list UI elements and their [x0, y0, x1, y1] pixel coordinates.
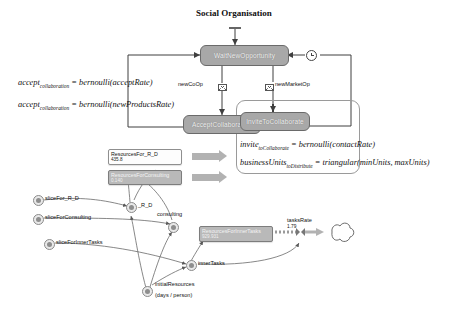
formula-name: accept [18, 100, 40, 109]
annotation-initial-resources-units: (days / person) [155, 292, 192, 298]
formula-expression: = bernoulli(contactRate) [291, 140, 375, 149]
envelope-icon [265, 84, 274, 91]
formula-business-units: businessUnitstoDistribute = triangular(m… [240, 158, 429, 169]
formula-subscript: collaboration [40, 105, 69, 111]
formula-accept-collaboration-1: acceptcollaboration = bernoulli(acceptRa… [18, 78, 153, 89]
variable-node-inner-tasks-icon[interactable] [186, 260, 197, 271]
variable-label-slice-for-rd: sliceFor_R_D [45, 195, 79, 201]
formula-expression: = triangular(minUnits, maxUnits) [315, 158, 430, 167]
flow-arrow-rd [192, 153, 220, 160]
variable-node-rd-icon[interactable] [126, 202, 137, 213]
variable-label-initial-resources: initialResources [155, 281, 194, 287]
envelope-icon [218, 84, 227, 91]
cloud-sink-icon [332, 223, 354, 241]
variable-node-consulting-icon[interactable] [168, 222, 179, 233]
variable-label-slice-for-consulting: sliceForConsulting [45, 214, 91, 220]
diagram-canvas: Social Organisation WaitNewOpportunity A… [0, 0, 472, 319]
diagram-title: Social Organisation [196, 8, 272, 18]
stock-resources-for-consulting[interactable]: ResourcesForConsulting 0.140 [108, 170, 182, 185]
variable-label-rd: _R_D [138, 202, 152, 208]
state-wait-new-opportunity[interactable]: WaitNewOpportunity [200, 45, 289, 66]
rate-value-tasks-rate: 1.79 [287, 224, 296, 229]
formula-subscript: collaboration [40, 83, 69, 89]
valve-icon[interactable] [296, 228, 305, 237]
variable-node-slice-for-inner-tasks-icon[interactable] [44, 239, 55, 250]
clock-icon [306, 50, 317, 61]
stock-value: 929.931 [202, 234, 219, 239]
stock-value: 0.140 [111, 178, 123, 183]
formula-accept-collaboration-2: acceptcollaboration = bernoulli(newProdu… [18, 100, 174, 111]
formula-invite-to-collaborate: invitetoCollaborate = bernoulli(contactR… [240, 140, 375, 151]
variable-label-slice-for-inner-tasks: sliceForInnerTasks [56, 239, 103, 245]
formula-expression: = bernoulli(newProductsRate) [71, 100, 174, 109]
formula-name: invite [240, 140, 259, 149]
formula-subscript: toCollaborate [259, 145, 289, 151]
formula-name: businessUnits [240, 158, 287, 167]
formula-subscript: toDistribute [287, 163, 313, 169]
state-invite-to-collaborate[interactable]: InviteToCollaborate [240, 112, 310, 131]
stock-value: 435.8 [111, 157, 123, 162]
flow-arrow-consulting [192, 174, 220, 181]
stock-resources-for-rd[interactable]: ResourcesFor_R_D 435.8 [108, 149, 182, 165]
formula-expression: = bernoulli(acceptRate) [71, 78, 152, 87]
variable-label-inner-tasks: innerTasks [198, 260, 225, 266]
variable-node-slice-for-consulting-icon[interactable] [33, 214, 44, 225]
variable-node-initial-resources-icon[interactable] [142, 286, 153, 297]
stock-resources-for-inner-tasks[interactable]: ResourcesForInnerTasks 929.931 [199, 226, 273, 242]
variable-label-consulting: consulting [157, 211, 182, 217]
message-label-new-coop: newCoOp [178, 81, 203, 87]
formula-name: accept [18, 78, 40, 87]
message-label-new-market-op: newMarketOp [275, 81, 310, 87]
rate-label-tasks-rate: tasksRate [287, 217, 312, 223]
variable-node-slice-for-rd-icon[interactable] [33, 195, 44, 206]
